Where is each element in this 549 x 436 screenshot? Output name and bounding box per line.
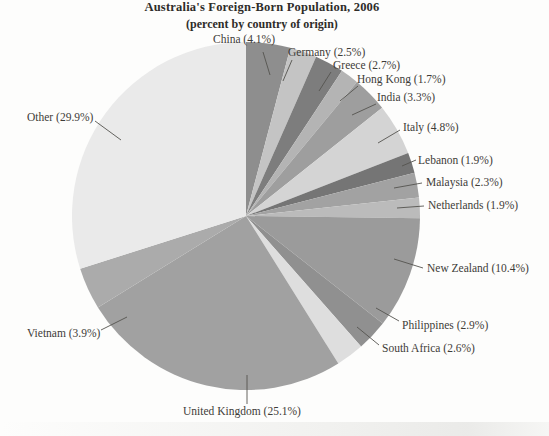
slice-label-china: China (4.1%) bbox=[213, 33, 275, 46]
chart-page: Australia's Foreign-Born Population, 200… bbox=[0, 0, 549, 436]
slice-label-new-zealand: New Zealand (10.4%) bbox=[427, 262, 529, 275]
slice-label-south-africa: South Africa (2.6%) bbox=[382, 342, 475, 355]
slice-label-hong-kong: Hong Kong (1.7%) bbox=[357, 73, 446, 86]
slice-label-lebanon: Lebanon (1.9%) bbox=[418, 154, 493, 167]
slice-label-greece: Greece (2.7%) bbox=[333, 59, 400, 72]
slice-label-germany: Germany (2.5%) bbox=[288, 46, 365, 59]
slice-label-netherlands: Netherlands (1.9%) bbox=[428, 199, 518, 212]
slice-label-other: Other (29.9%) bbox=[27, 111, 94, 124]
pie-chart: China (4.1%)Germany (2.5%)Greece (2.7%)H… bbox=[0, 0, 549, 436]
slice-label-philippines: Philippines (2.9%) bbox=[402, 319, 488, 332]
slice-label-vietnam: Vietnam (3.9%) bbox=[27, 327, 101, 340]
slice-label-india: India (3.3%) bbox=[377, 91, 435, 104]
slice-label-italy: Italy (4.8%) bbox=[403, 121, 459, 134]
slice-label-united-kingdom: United Kingdom (25.1%) bbox=[183, 405, 301, 418]
slice-label-malaysia: Malaysia (2.3%) bbox=[426, 176, 503, 189]
